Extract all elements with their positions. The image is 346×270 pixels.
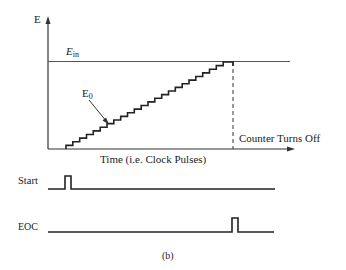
figure-caption: (b): [162, 251, 174, 261]
eoc-waveform: [48, 218, 274, 232]
eoc-label: EOC: [18, 222, 38, 232]
start-label: Start: [18, 176, 38, 187]
counter-turns-off-label: Counter Turns Off: [239, 133, 320, 144]
e0-arrow-icon: [103, 118, 110, 125]
x-axis-arrow-icon: [287, 147, 295, 152]
x-axis-label: Time (i.e. Clock Pulses): [100, 154, 206, 165]
ein-label: Ein: [66, 46, 79, 59]
staircase-e0: [66, 62, 233, 149]
y-axis-label: E: [34, 14, 41, 25]
start-waveform: [48, 176, 275, 189]
e0-label: E0: [82, 88, 93, 101]
y-axis-arrow-icon: [46, 16, 51, 24]
e0-pointer: [89, 100, 107, 122]
